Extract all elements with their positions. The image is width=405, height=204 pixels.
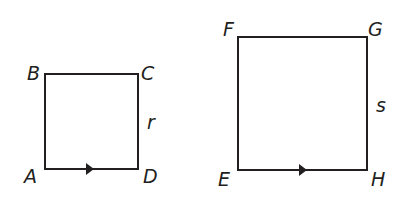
vertex-label-b: B — [27, 62, 40, 84]
side-label-s: s — [376, 94, 386, 116]
vertex-label-c: C — [141, 62, 155, 84]
diagram-canvas: B C A D r F G E H s — [0, 0, 405, 204]
vertex-label-g: G — [368, 18, 383, 40]
small-square: B C A D r — [22, 62, 158, 187]
vertex-label-h: H — [371, 168, 385, 190]
arrow-marker-ad — [86, 163, 94, 175]
vertex-label-d: D — [143, 165, 158, 187]
vertex-label-e: E — [218, 168, 230, 190]
arrow-marker-eh — [299, 164, 307, 176]
large-square: F G E H s — [218, 18, 386, 190]
vertex-label-a: A — [22, 165, 37, 187]
side-label-r: r — [147, 111, 156, 133]
vertex-label-f: F — [223, 18, 235, 40]
square-abcd — [45, 74, 138, 169]
square-efgh — [238, 37, 367, 170]
